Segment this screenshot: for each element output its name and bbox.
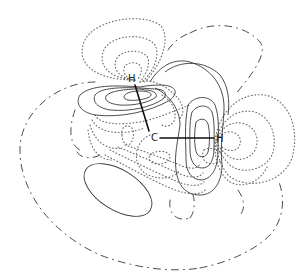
dash-dot-boundary bbox=[20, 26, 283, 270]
atom-label-c: C bbox=[151, 132, 158, 143]
lower-lobe-ellipse bbox=[75, 153, 161, 227]
orbital-contour-diagram: H C H bbox=[0, 0, 302, 279]
positive-contours bbox=[75, 61, 229, 227]
negative-contours bbox=[82, 19, 295, 194]
contour-plot-canvas: H C H bbox=[0, 0, 302, 279]
atom-label-h-upper: H bbox=[128, 73, 136, 84]
atom-label-h-right: H bbox=[216, 133, 224, 144]
